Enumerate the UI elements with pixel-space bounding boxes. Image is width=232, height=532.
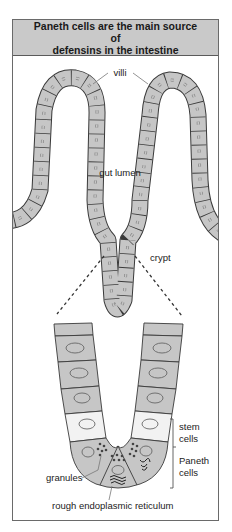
villi-leader-left [93, 73, 108, 84]
paneth-cells-label-line2: cells [179, 467, 198, 478]
villi-leader-right [133, 73, 148, 84]
intestine-diagram: villi gut lumen crypt [0, 0, 232, 532]
cell-type-bracket [170, 419, 176, 488]
paneth-cells-label-line1: Paneth [179, 455, 209, 466]
villi-label: villi [113, 67, 126, 78]
zoom-line-right [135, 256, 182, 316]
stem-cells-label-line2: cells [179, 433, 198, 444]
crypt-enlarged [54, 323, 183, 488]
rough-er-label: rough endoplasmic reticulum [52, 500, 174, 511]
crypt-label: crypt [150, 252, 171, 263]
rough-er-leader [109, 486, 112, 500]
granules-label: granules [46, 472, 83, 483]
stem-cells-label-line1: stem [179, 421, 200, 432]
zoom-line-left [57, 256, 104, 314]
villi-epithelium [0, 78, 225, 309]
gut-lumen-label: gut lumen [99, 167, 141, 178]
